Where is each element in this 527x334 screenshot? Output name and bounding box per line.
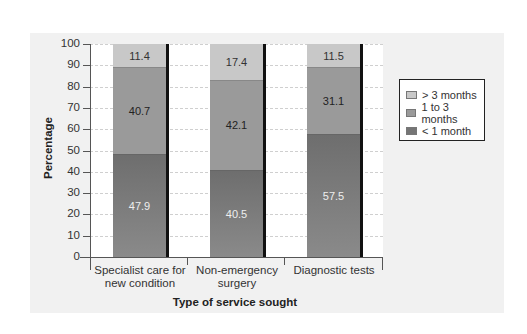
bar-shadow	[263, 44, 266, 257]
bar-segment: 17.4	[210, 44, 263, 81]
x-category-label: Non-emergencysurgery	[189, 264, 285, 290]
y-tick-label: 0	[50, 250, 80, 262]
legend-label: 1 to 3 months	[421, 101, 484, 125]
y-tick	[83, 65, 90, 66]
x-axis	[80, 257, 383, 258]
y-tick	[83, 172, 90, 173]
y-tick-label: 70	[50, 101, 80, 113]
x-axis-end-tick	[382, 257, 383, 270]
y-tick	[83, 87, 90, 88]
bar-segment: 31.1	[307, 68, 360, 134]
y-tick-label: 100	[50, 37, 80, 49]
legend-label: > 3 months	[422, 89, 477, 101]
x-axis-title: Type of service sought	[130, 296, 340, 308]
legend-swatch-lt1	[406, 127, 417, 135]
y-tick	[83, 129, 90, 130]
bar-segment: 40.7	[113, 68, 166, 155]
y-tick	[83, 236, 90, 237]
y-tick-label: 60	[50, 122, 80, 134]
y-tick	[83, 44, 90, 45]
x-category-label: Specialist care fornew condition	[92, 264, 188, 290]
bar-shadow	[360, 44, 363, 257]
bar-0: 47.940.711.4	[113, 44, 166, 257]
bar-1: 40.542.117.4	[210, 44, 263, 257]
bar-segment: 11.5	[307, 44, 360, 68]
y-tick	[83, 108, 90, 109]
bar-segment: 11.4	[113, 44, 166, 68]
y-tick	[83, 257, 90, 258]
bar-segment: 42.1	[210, 81, 263, 171]
y-tick-label: 50	[50, 144, 80, 156]
y-tick-label: 10	[50, 229, 80, 241]
y-tick-label: 30	[50, 186, 80, 198]
legend-item-1to3: 1 to 3 months	[406, 104, 484, 122]
x-category-separator	[187, 257, 188, 265]
y-tick-label: 90	[50, 58, 80, 70]
y-tick	[83, 151, 90, 152]
y-tick-label: 80	[50, 80, 80, 92]
bar-segment: 47.9	[113, 155, 166, 257]
y-tick	[83, 214, 90, 215]
y-axis	[90, 44, 91, 270]
x-category-separator	[284, 257, 285, 265]
y-tick-label: 20	[50, 207, 80, 219]
y-tick-label: 40	[50, 165, 80, 177]
legend-label: < 1 month	[422, 125, 471, 137]
legend-swatch-gt3	[406, 91, 417, 99]
y-tick	[83, 193, 90, 194]
bar-segment: 40.5	[210, 171, 263, 257]
legend: > 3 months 1 to 3 months < 1 month	[399, 79, 485, 141]
bar-shadow	[166, 44, 169, 257]
x-category-label: Diagnostic tests	[286, 264, 382, 277]
bar-segment: 57.5	[307, 135, 360, 257]
bar-2: 57.531.111.5	[307, 44, 360, 257]
y-axis-title: Percentage	[42, 98, 54, 198]
legend-swatch-1to3	[406, 109, 416, 117]
